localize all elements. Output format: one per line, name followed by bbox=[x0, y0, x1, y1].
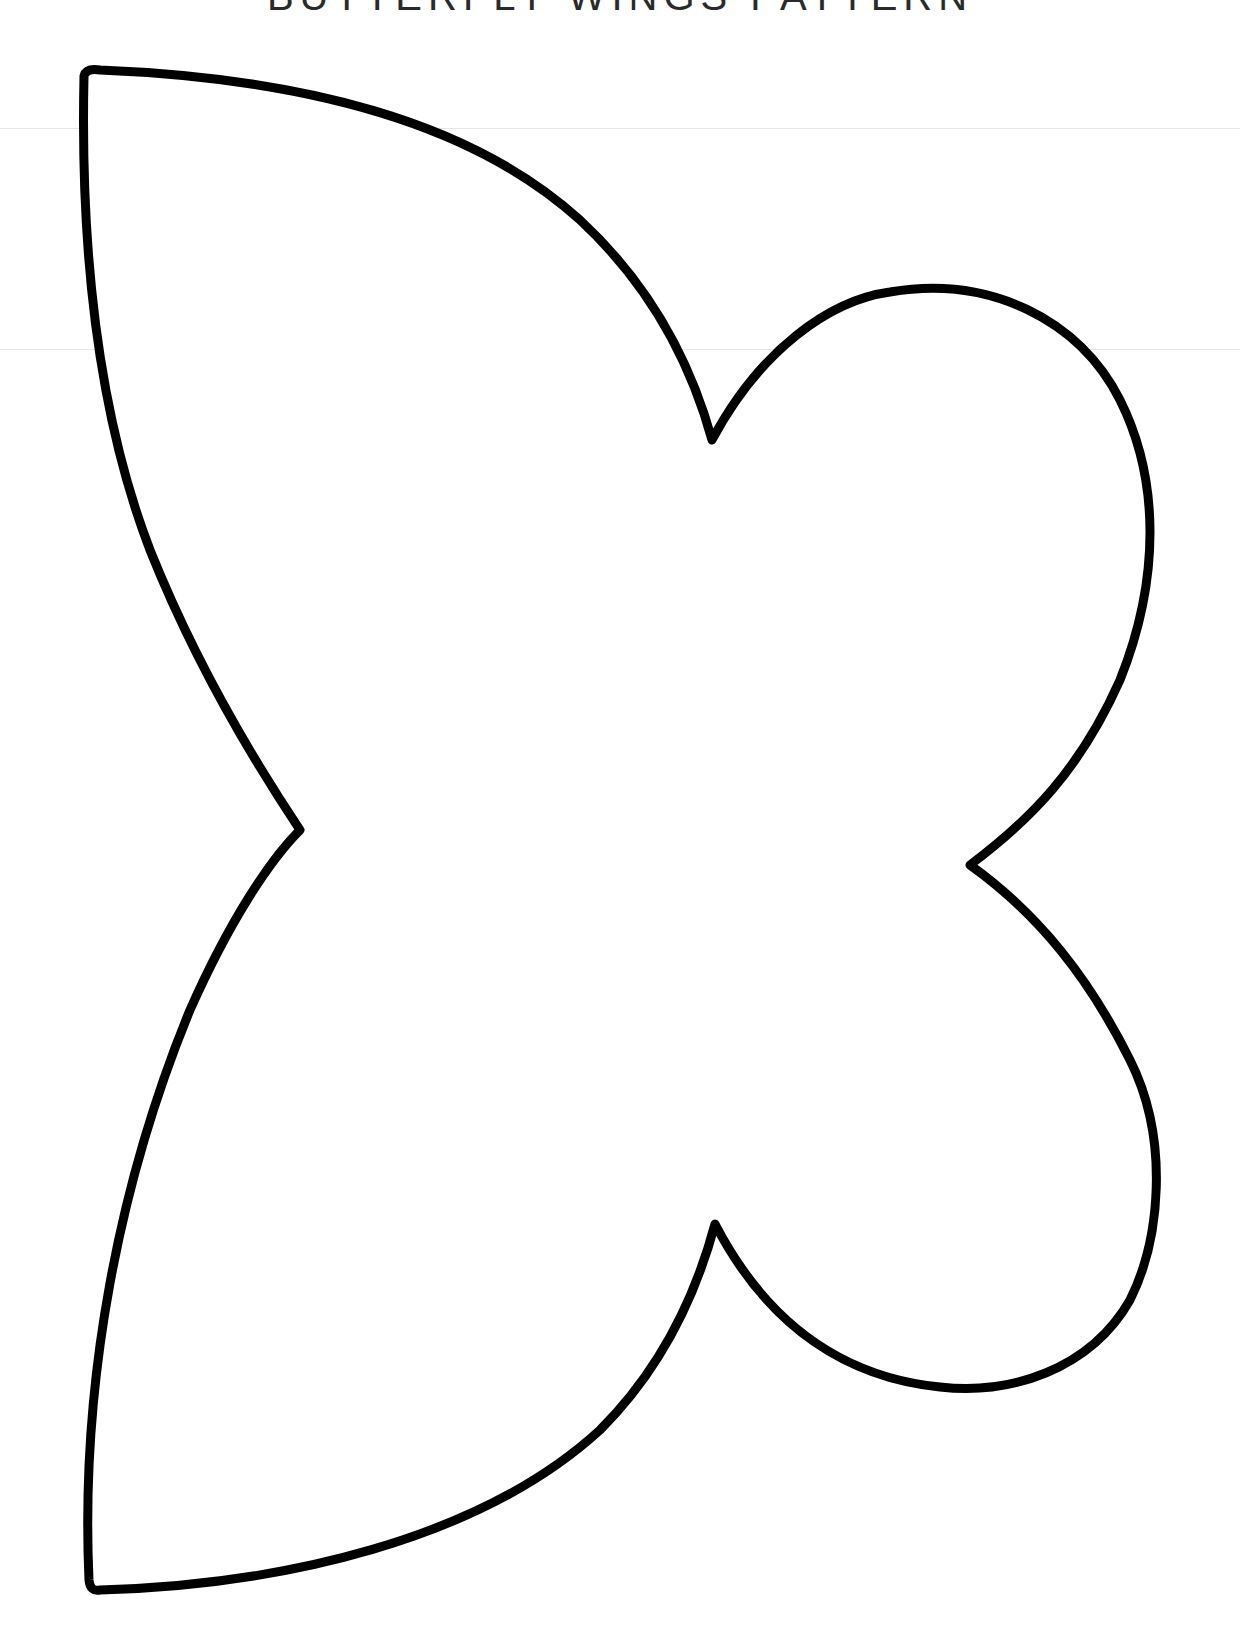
printable-page: BUTTERFLY WINGS PATTERN bbox=[0, 0, 1240, 1647]
wings-outline-path bbox=[84, 70, 1157, 1591]
butterfly-wings-outline bbox=[0, 0, 1240, 1647]
